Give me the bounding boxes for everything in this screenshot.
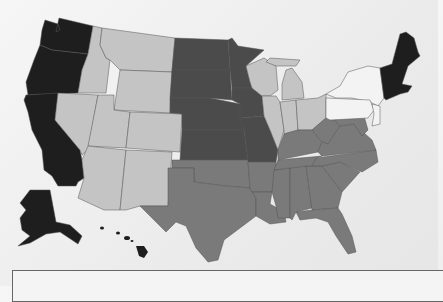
state-michigan-lower[interactable] <box>282 68 304 100</box>
state-kentucky[interactable] <box>278 130 322 160</box>
state-new-england[interactable] <box>380 32 420 100</box>
state-alaska[interactable] <box>18 190 82 246</box>
state-north-dakota[interactable] <box>172 38 230 70</box>
state-colorado[interactable] <box>126 112 182 152</box>
state-new-jersey[interactable] <box>372 104 380 126</box>
state-kansas[interactable] <box>180 130 248 160</box>
state-arizona[interactable] <box>78 146 126 210</box>
state-hawaii[interactable] <box>100 227 148 259</box>
legend-box <box>12 270 443 302</box>
state-pennsylvania[interactable] <box>326 98 374 120</box>
state-wyoming[interactable] <box>114 70 172 113</box>
state-new-mexico[interactable] <box>120 150 172 210</box>
state-south-dakota[interactable] <box>170 70 232 100</box>
state-montana[interactable] <box>100 28 175 72</box>
state-florida[interactable] <box>296 208 356 254</box>
